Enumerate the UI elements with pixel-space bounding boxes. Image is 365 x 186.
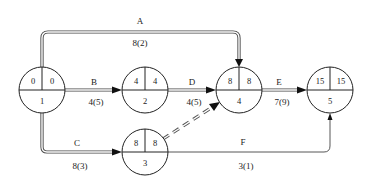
node-4-ls: 8 — [247, 76, 251, 86]
node-4: 8 8 4 — [216, 67, 262, 113]
activity-f-label: F — [240, 137, 245, 147]
activity-a-label: A — [137, 16, 144, 26]
activity-c-arrow — [42, 113, 122, 156]
node-3-es: 8 — [134, 138, 138, 148]
node-3: 8 8 3 — [122, 129, 168, 175]
activity-d-arrow — [168, 87, 216, 94]
activity-c-label: C — [74, 138, 80, 148]
activity-e-duration: 7(9) — [275, 97, 290, 107]
node-3-ls: 8 — [153, 138, 157, 148]
node-5-id: 5 — [328, 96, 332, 106]
node-3-id: 3 — [143, 158, 147, 168]
activity-a-duration: 8(2) — [133, 38, 148, 48]
node-2-id: 2 — [143, 96, 147, 106]
node-1-es: 0 — [31, 76, 35, 86]
network-diagram: A 8(2) B 4(5) C 8(3) D 4(5) E 7(9) F 3(1… — [0, 0, 365, 186]
activity-e-label: E — [276, 77, 282, 87]
node-5: 15 15 5 — [307, 67, 353, 113]
node-4-es: 8 — [228, 76, 232, 86]
node-1-ls: 0 — [50, 76, 54, 86]
activity-b-label: B — [91, 77, 97, 87]
node-1: 0 0 1 — [19, 67, 65, 113]
dummy-activity-arrow — [163, 102, 220, 139]
activity-c-duration: 8(3) — [73, 161, 88, 171]
node-1-id: 1 — [40, 96, 44, 106]
activity-e-arrow — [262, 87, 307, 94]
activity-b-arrow — [65, 87, 122, 94]
activity-f-duration: 3(1) — [239, 161, 254, 171]
activity-f-arrow — [168, 113, 333, 152]
activity-d-label: D — [189, 77, 196, 87]
node-5-es: 15 — [316, 76, 325, 86]
activity-b-duration: 4(5) — [89, 97, 104, 107]
activity-d-duration: 4(5) — [187, 97, 202, 107]
node-2: 4 4 2 — [122, 67, 168, 113]
node-5-ls: 15 — [337, 76, 346, 86]
